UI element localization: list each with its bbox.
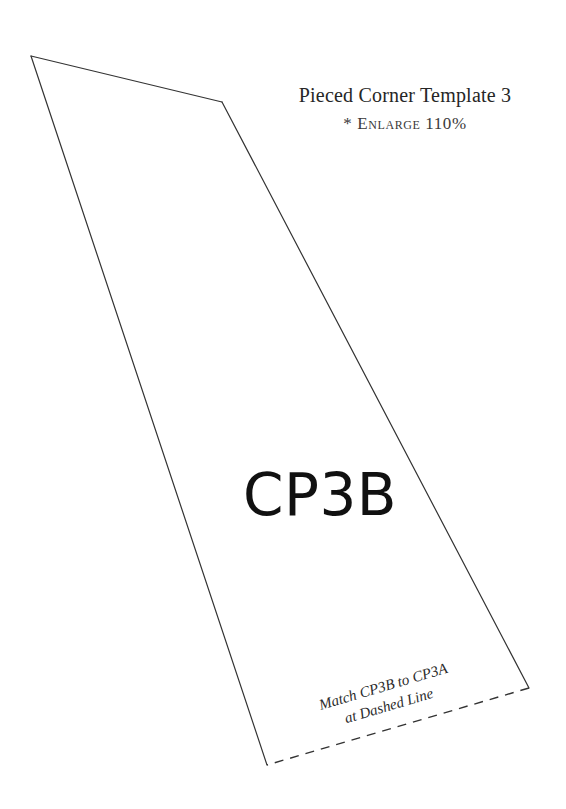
enlarge-instruction: * Enlarge 110% — [255, 114, 555, 134]
pattern-template-page: Pieced Corner Template 3 * Enlarge 110% … — [0, 0, 566, 809]
heading-block: Pieced Corner Template 3 * Enlarge 110% — [255, 84, 555, 133]
page-title: Pieced Corner Template 3 — [255, 84, 555, 108]
piece-label: CP3B — [180, 466, 460, 524]
